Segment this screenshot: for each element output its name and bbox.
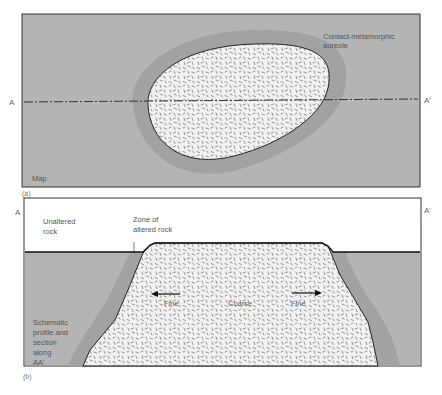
panel-a-map: A A' Contact-metamorphic aureole Map (a) <box>9 14 431 198</box>
unaltered-label-2: rock <box>43 227 57 236</box>
aureole-label-2: aureole <box>323 41 348 50</box>
panel-a-tag: (a) <box>22 190 31 198</box>
fine-label-right: Fine <box>291 299 306 308</box>
map-label-A: A <box>9 98 15 107</box>
coarse-label: Coarse <box>228 299 252 308</box>
caption-3: section <box>33 338 57 347</box>
unaltered-label-1: Unaltered <box>43 217 76 226</box>
geology-figure: A A' Contact-metamorphic aureole Map (a)… <box>0 0 442 395</box>
caption-5: AA' <box>33 358 45 367</box>
map-corner-label: Map <box>32 174 47 183</box>
zone-label-1: Zone of <box>133 215 159 224</box>
caption-4: along <box>33 348 51 357</box>
map-label-A-prime: A' <box>424 96 431 105</box>
panel-b-section: A A' Unaltered rock Zone of altered rock… <box>15 198 431 381</box>
caption-1: Schematic <box>33 318 68 327</box>
zone-label-2: altered rock <box>133 225 172 234</box>
panel-b-tag: (b) <box>23 373 32 381</box>
section-label-A: A <box>15 208 21 217</box>
fine-label-left: Fine <box>164 299 179 308</box>
aureole-label-1: Contact-metamorphic <box>323 32 395 41</box>
caption-2: profile and <box>33 328 68 337</box>
section-label-A-prime: A' <box>424 206 431 215</box>
